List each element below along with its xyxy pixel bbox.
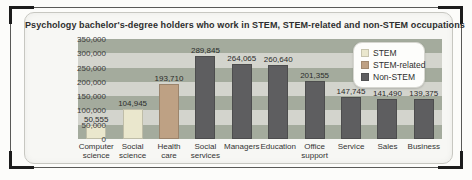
bar-value-label: 147,745 xyxy=(337,87,366,96)
chart-panel: Psychology bachelor's-degree holders who… xyxy=(24,12,453,164)
bar xyxy=(232,64,252,139)
x-category-label: Computer science xyxy=(79,142,114,160)
bar-value-label: 139,375 xyxy=(409,89,438,98)
legend-label: Non-STEM xyxy=(373,72,415,82)
legend-swatch xyxy=(361,49,369,57)
y-tick-label: 250,000 xyxy=(66,64,106,73)
bar xyxy=(159,84,179,139)
legend-label: STEM xyxy=(373,48,397,58)
y-tick-label: 300,000 xyxy=(66,49,106,58)
x-category-label: Managers xyxy=(224,142,260,151)
bar xyxy=(305,81,325,139)
bar-value-label: 193,710 xyxy=(155,74,184,83)
legend: STEMSTEM-relatedNon-STEM xyxy=(353,42,425,88)
x-category-label: Education xyxy=(260,142,296,151)
x-category-label: Sales xyxy=(377,142,397,151)
x-category-label: Office support xyxy=(301,142,328,160)
x-category-label: Health care xyxy=(157,142,180,160)
x-category-label: Social services xyxy=(191,142,220,160)
bar xyxy=(123,109,143,139)
bar-value-label: 141,490 xyxy=(373,89,402,98)
y-tick-label: 150,000 xyxy=(66,92,106,101)
bar xyxy=(414,99,434,139)
bar-value-label: 260,640 xyxy=(264,55,293,64)
bar xyxy=(268,65,288,139)
legend-swatch xyxy=(361,61,369,69)
legend-item: Non-STEM xyxy=(361,71,418,83)
legend-swatch xyxy=(361,73,369,81)
bar xyxy=(195,56,215,139)
bar-value-label: 289,845 xyxy=(191,46,220,55)
bar-value-label: 264,065 xyxy=(227,54,256,63)
x-category-label: Social science xyxy=(119,142,146,160)
bar xyxy=(377,99,397,139)
legend-label: STEM-related xyxy=(373,60,425,70)
bar-value-label: 104,945 xyxy=(118,99,147,108)
x-category-label: Service xyxy=(338,142,365,151)
bar-value-label: 201,355 xyxy=(300,71,329,80)
legend-item: STEM-related xyxy=(361,59,418,71)
y-tick-label: 200,000 xyxy=(66,78,106,87)
x-category-label: Business xyxy=(408,142,440,151)
legend-item: STEM xyxy=(361,47,418,59)
bar xyxy=(341,97,361,139)
chart-title: Psychology bachelor's-degree holders who… xyxy=(25,20,452,30)
bar-value-label: 50,555 xyxy=(84,115,108,124)
y-tick-label: 350,000 xyxy=(66,35,106,44)
